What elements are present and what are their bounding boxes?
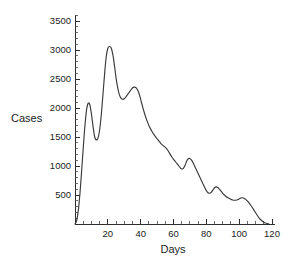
x-axis-title: Days	[160, 243, 186, 255]
y-axis-tick-label: 3000	[50, 44, 71, 55]
y-axis-tick-label: 3500	[50, 15, 71, 26]
x-axis-tick-label: 80	[201, 228, 212, 239]
x-axis-tick-label: 40	[135, 228, 146, 239]
y-axis-title: Cases	[11, 112, 43, 124]
y-axis-tick-label: 500	[55, 189, 71, 200]
cases-over-days-line-chart: 500100015002000250030003500 204060801001…	[0, 0, 294, 258]
y-axis-tick-label: 1000	[50, 160, 71, 171]
chart-figure: 500100015002000250030003500 204060801001…	[0, 0, 294, 258]
x-axis-tick-label: 100	[231, 228, 247, 239]
x-axis-tick-label: 60	[168, 228, 179, 239]
y-axis-tick-label: 2500	[50, 73, 71, 84]
chart-background	[0, 0, 294, 258]
y-axis-tick-label: 2000	[50, 102, 71, 113]
x-axis-tick-label: 120	[264, 228, 280, 239]
y-axis-tick-label: 1500	[50, 131, 71, 142]
x-axis-tick-label: 20	[103, 228, 114, 239]
